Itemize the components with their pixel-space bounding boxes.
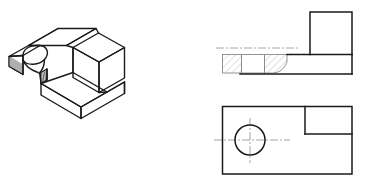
isometric-view	[9, 29, 125, 119]
front-hatch-right	[264, 54, 289, 74]
drawing-sheet	[0, 0, 367, 182]
top-view-notch	[305, 107, 352, 135]
iso-step-to-block-edge	[99, 92, 107, 93]
iso-upper-slab-left-edge	[29, 29, 59, 46]
top-view	[214, 107, 352, 175]
iso-tall-block-right-face	[99, 48, 125, 93]
front-hatch-left	[223, 55, 242, 73]
iso-base-front-left-face	[41, 84, 81, 119]
iso-upper-slab-top-face	[29, 29, 97, 46]
iso-upper-rear-link	[96, 29, 99, 34]
technical-drawing-canvas	[0, 0, 367, 182]
front-base-slab-outline	[240, 55, 352, 75]
iso-slot-wall-shading	[42, 71, 47, 83]
iso-base-front-right-face	[81, 82, 125, 119]
iso-plateau-to-block-edge	[67, 46, 74, 48]
front-section-view	[216, 12, 352, 74]
iso-slot-wall-front-edge	[40, 73, 41, 84]
front-tall-block-outline	[310, 12, 352, 55]
